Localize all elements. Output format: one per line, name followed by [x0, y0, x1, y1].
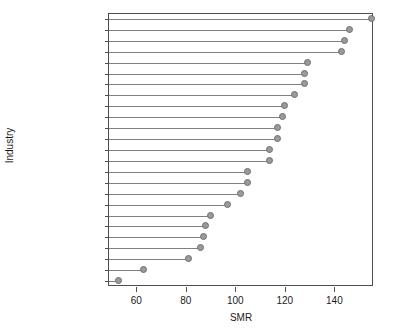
- dotplot-row-line: [109, 139, 277, 140]
- dotplot-row-line: [109, 216, 211, 217]
- dotplot-row: Construction: [109, 36, 372, 47]
- dotplot-row: Clothing: [109, 167, 372, 178]
- dotplot-row: Sales: [109, 232, 372, 243]
- x-axis-title: SMR: [108, 312, 374, 323]
- data-point: [197, 244, 204, 251]
- dotplot-row-line: [109, 259, 188, 260]
- dotplot-row-line: [109, 205, 228, 206]
- y-axis-tick: [105, 205, 109, 206]
- y-axis-tick: [105, 74, 109, 75]
- dotplot-row: Professional: [109, 276, 372, 287]
- dotplot-chart: Industry SMR FurnaceLabouringConstructio…: [0, 0, 394, 333]
- data-point: [291, 91, 298, 98]
- dotplot-row: Leather: [109, 178, 372, 189]
- dotplot-row: Painting: [109, 47, 372, 58]
- y-axis-tick: [105, 259, 109, 260]
- y-axis-tick: [105, 150, 109, 151]
- dotplot-row-line: [109, 128, 277, 129]
- dotplot-row-line: [109, 161, 270, 162]
- dotplot-row-line: [109, 172, 248, 173]
- data-point: [341, 37, 348, 44]
- data-point: [301, 80, 308, 87]
- data-point: [185, 255, 192, 262]
- data-point: [115, 277, 122, 284]
- data-point: [281, 102, 288, 109]
- y-axis-tick: [105, 128, 109, 129]
- dotplot-row-line: [109, 19, 372, 20]
- dotplot-row-line: [109, 41, 344, 42]
- dotplot-row: Electrical: [109, 189, 372, 200]
- dotplot-row: Mining: [109, 123, 372, 134]
- dotplot-row: Chemical: [109, 90, 372, 101]
- dotplot-row: Crane driving: [109, 145, 372, 156]
- x-axis-label-140: 140: [314, 295, 354, 306]
- data-point: [266, 157, 273, 164]
- dotplot-row-line: [109, 117, 282, 118]
- data-point: [207, 212, 214, 219]
- dotplot-row: Woodwork: [109, 156, 372, 167]
- data-point: [304, 59, 311, 66]
- dotplot-row-line: [109, 84, 305, 85]
- y-axis-tick: [105, 41, 109, 42]
- dotplot-row: Engineering: [109, 112, 372, 123]
- y-axis-tick: [105, 161, 109, 162]
- y-axis-title: Industry: [4, 116, 15, 176]
- dotplot-row-line: [109, 95, 295, 96]
- dotplot-row-line: [109, 270, 144, 271]
- dotplot-row: Clerical: [109, 254, 372, 265]
- dotplot-row-line: [109, 52, 342, 53]
- data-point: [244, 179, 251, 186]
- y-axis-tick: [105, 84, 109, 85]
- dotplot-row: Printing: [109, 221, 372, 232]
- data-point: [279, 113, 286, 120]
- dotplot-row: Other: [109, 200, 372, 211]
- y-axis-tick: [105, 30, 109, 31]
- data-point: [244, 168, 251, 175]
- dotplot-row: Labouring: [109, 25, 372, 36]
- dotplot-row-line: [109, 248, 201, 249]
- dotplot-row-line: [109, 74, 305, 75]
- dotplot-row-line: [109, 237, 203, 238]
- dotplot-row: Textile: [109, 211, 372, 222]
- data-point: [346, 26, 353, 33]
- dotplot-row: Tobacco: [109, 58, 372, 69]
- dotplot-row: Communications: [109, 69, 372, 80]
- y-axis-tick: [105, 281, 109, 282]
- plot-panel: FurnaceLabouringConstructionPaintingToba…: [108, 13, 373, 286]
- data-point: [237, 190, 244, 197]
- data-point: [274, 135, 281, 142]
- dotplot-row: Furnace: [109, 14, 372, 25]
- x-axis-label-60: 60: [116, 295, 156, 306]
- y-axis-tick: [105, 63, 109, 64]
- x-axis-tick: [235, 287, 236, 292]
- dotplot-row: Management: [109, 265, 372, 276]
- x-axis-tick: [285, 287, 286, 292]
- x-axis-label-80: 80: [166, 295, 206, 306]
- dotplot-row-line: [109, 183, 248, 184]
- y-axis-tick: [105, 248, 109, 249]
- dotplot-row-line: [109, 194, 240, 195]
- y-axis-tick: [105, 52, 109, 53]
- dotplot-row-line: [109, 63, 307, 64]
- dotplot-row: Service: [109, 101, 372, 112]
- y-axis-tick: [105, 106, 109, 107]
- x-axis-tick: [186, 287, 187, 292]
- dotplot-row-line: [109, 226, 206, 227]
- data-point: [140, 266, 147, 273]
- dotplot-row: Farming: [109, 243, 372, 254]
- data-point: [266, 146, 273, 153]
- dotplot-row: Glass: [109, 79, 372, 90]
- data-point: [200, 233, 207, 240]
- y-axis-tick: [105, 216, 109, 217]
- y-axis-tick: [105, 270, 109, 271]
- data-point: [301, 70, 308, 77]
- data-point: [368, 15, 375, 22]
- y-axis-tick: [105, 172, 109, 173]
- x-axis-label-100: 100: [215, 295, 255, 306]
- y-axis-tick: [105, 183, 109, 184]
- dotplot-row-line: [109, 150, 270, 151]
- y-axis-tick: [105, 194, 109, 195]
- y-axis-tick: [105, 19, 109, 20]
- dotplot-row: Warehouse: [109, 134, 372, 145]
- data-point: [274, 124, 281, 131]
